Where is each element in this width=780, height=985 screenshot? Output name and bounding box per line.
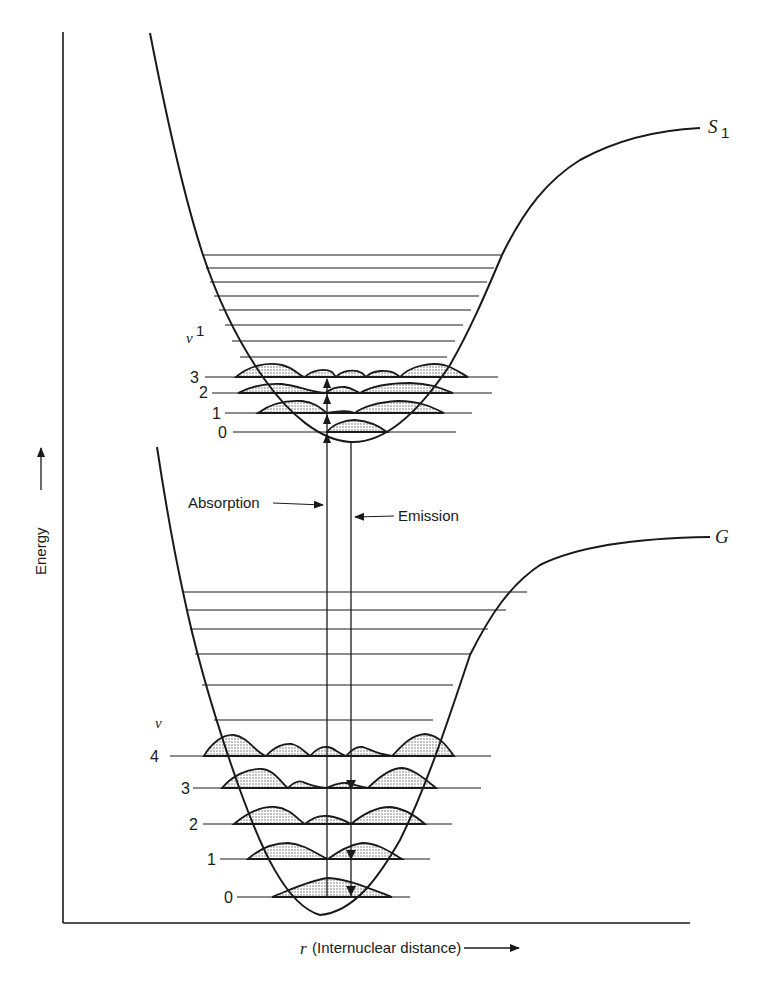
emission-pointer-icon — [355, 516, 394, 517]
s1-potential-curve — [150, 33, 700, 442]
g-wavefunctions — [204, 734, 454, 897]
x-axis-label: r (Internuclear distance) — [300, 939, 519, 958]
energy-label: Energy — [32, 527, 49, 575]
s1-level-0: 0 — [218, 424, 227, 441]
g-psi-2 — [234, 807, 425, 824]
g-level-3: 3 — [181, 780, 190, 797]
s1-upper-levels — [203, 255, 502, 357]
franck-condon-diagram: Energy r (Internuclear distance) — [0, 0, 780, 985]
s1-level-2: 2 — [199, 384, 208, 401]
s1-subscript: 1 — [721, 124, 729, 141]
s1-nu-label: ν — [186, 330, 193, 346]
emission-label: Emission — [398, 507, 459, 524]
s1-wavefunctions — [236, 364, 468, 432]
g-level-4: 4 — [150, 748, 159, 765]
g-nu-label: ν — [155, 715, 162, 731]
y-axis-label: Energy — [32, 448, 49, 575]
s1-level-1: 1 — [212, 405, 221, 422]
r-symbol: r — [300, 939, 307, 958]
g-numbered-levels — [170, 756, 491, 897]
axes — [63, 32, 690, 923]
absorption-label: Absorption — [188, 494, 260, 511]
g-level-0: 0 — [224, 889, 233, 906]
g-psi-4 — [204, 734, 454, 756]
absorption-pointer-icon — [273, 503, 323, 505]
g-psi-3 — [222, 768, 436, 788]
g-level-2: 2 — [189, 816, 198, 833]
g-level-1: 1 — [207, 851, 216, 868]
s1-psi-0 — [327, 420, 387, 432]
s1-label: S — [708, 116, 718, 137]
g-psi-1 — [248, 843, 402, 859]
s1-level-3: 3 — [190, 369, 199, 386]
g-upper-levels — [183, 592, 527, 720]
s1-nu-superscript: 1 — [196, 322, 204, 339]
s1-psi-3 — [236, 364, 468, 377]
g-label: G — [715, 526, 729, 547]
excited-state-s1: S 1 ν 1 3 2 1 0 — [150, 33, 729, 442]
internuclear-distance-label: (Internuclear distance) — [312, 939, 461, 956]
